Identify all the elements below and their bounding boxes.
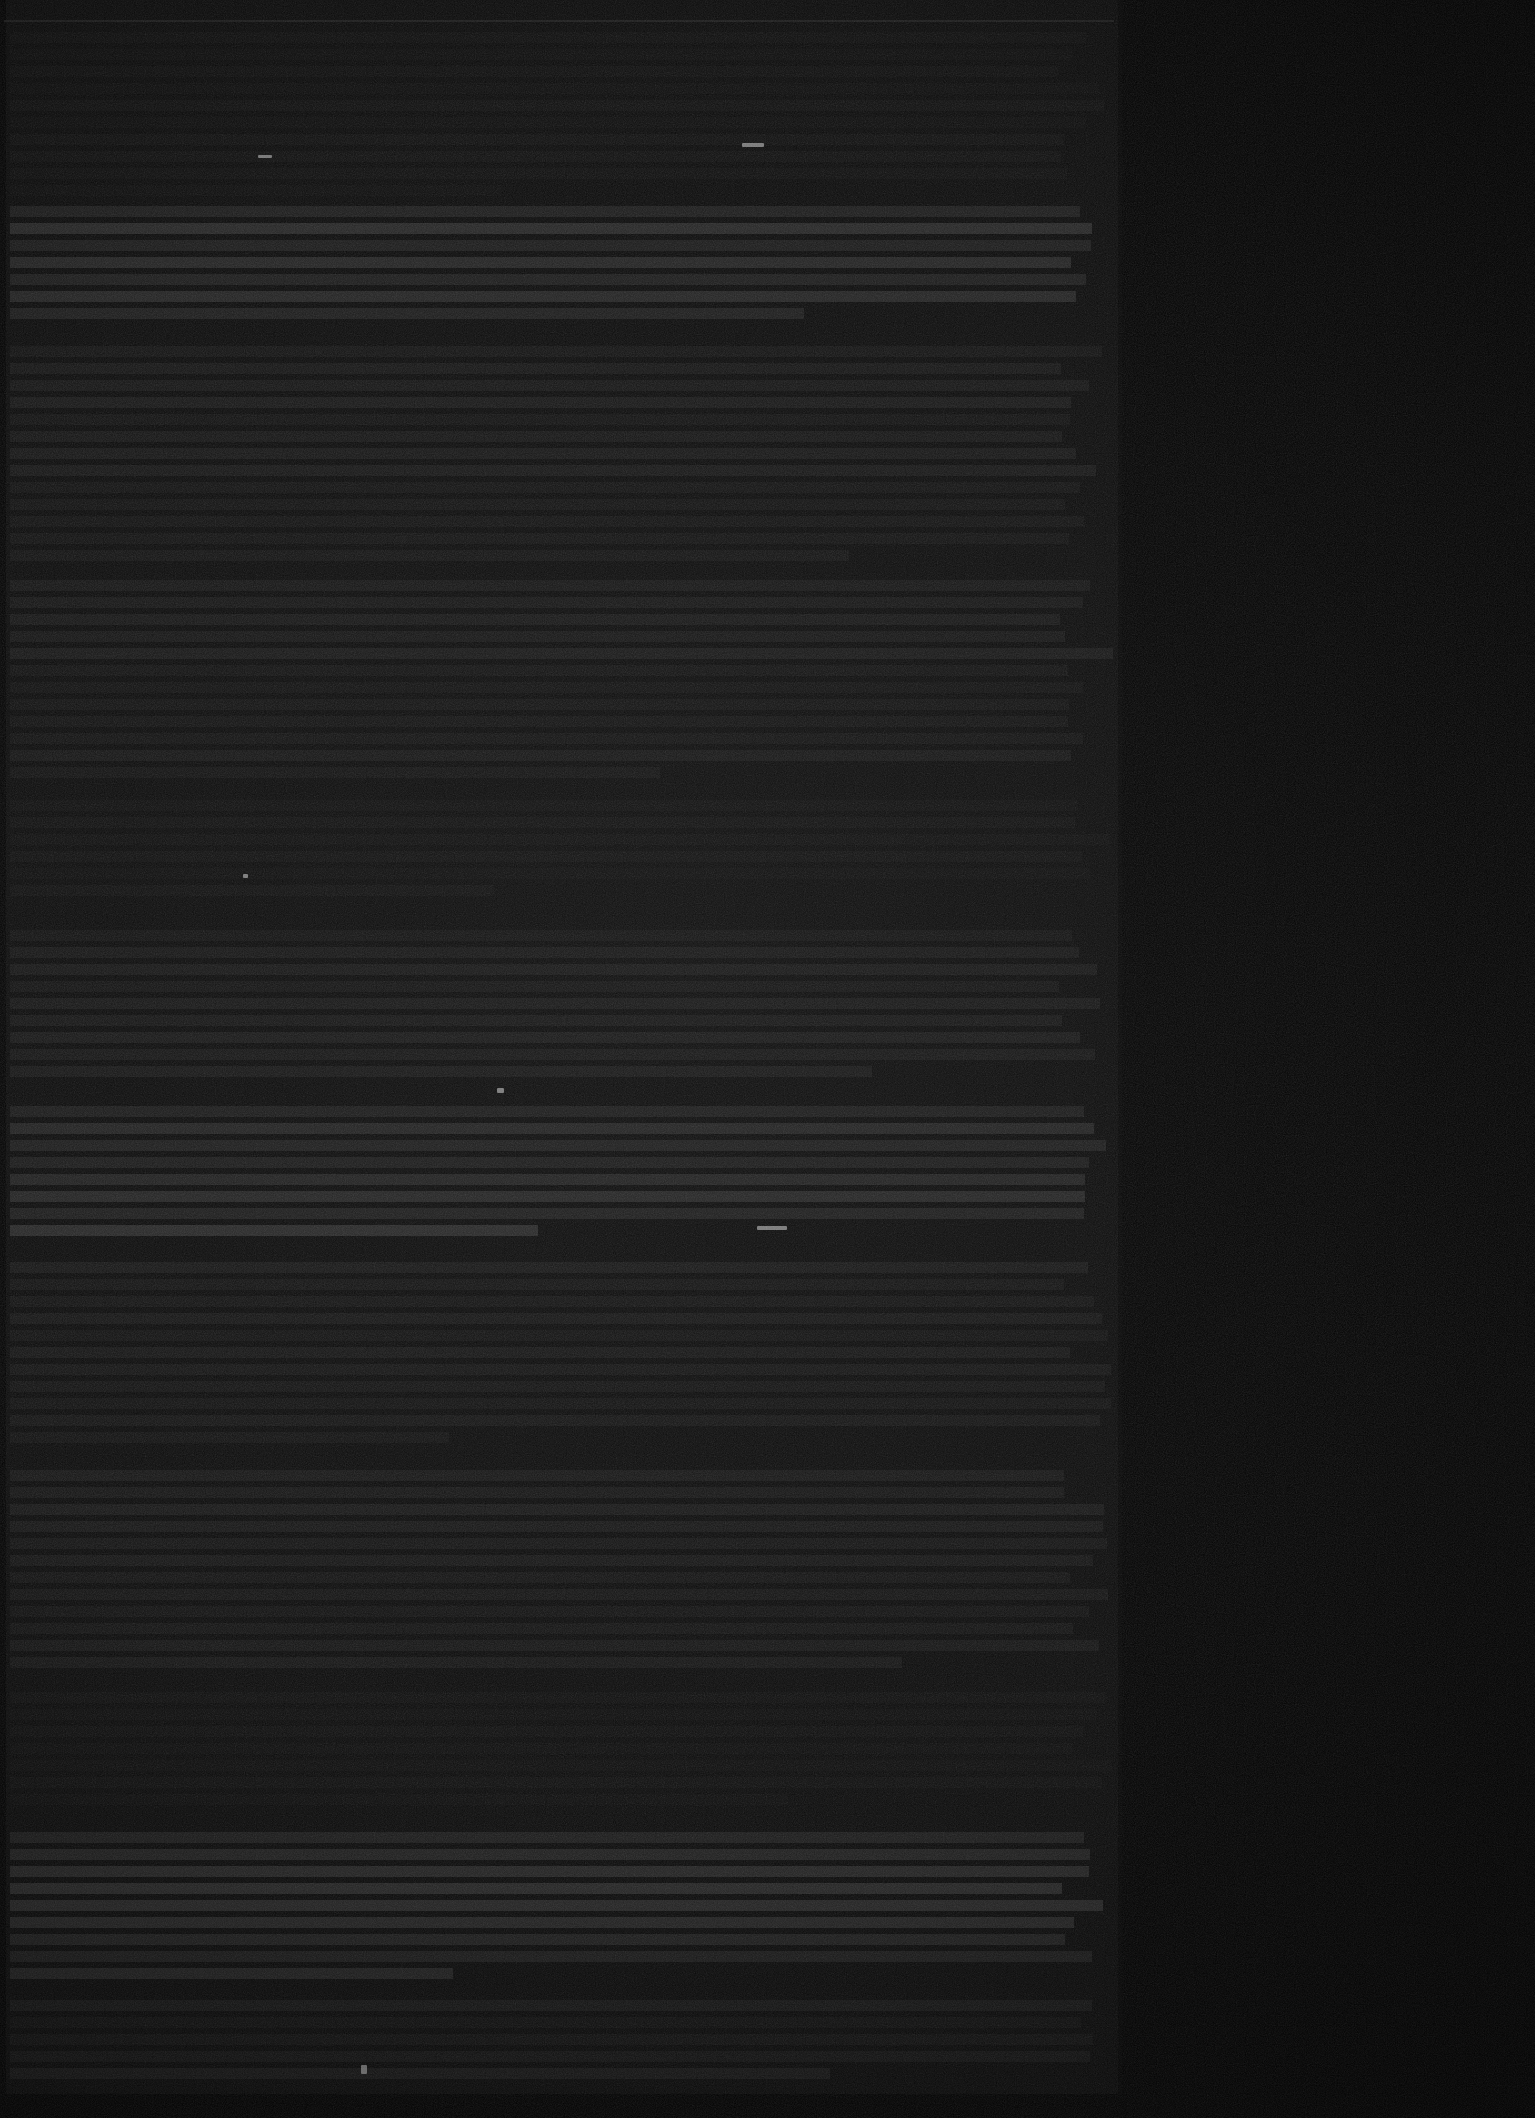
text-line [10,1866,1089,1877]
text-line [10,1066,872,1077]
text-line [10,1900,1103,1911]
text-line [10,648,1113,659]
scanner-speck [497,1088,504,1093]
text-line [10,1208,1084,1219]
text-line [10,1313,1102,1324]
text-line [10,1123,1094,1134]
text-line [10,448,1076,459]
text-line [10,1760,1112,1771]
text-line [10,2034,1093,2045]
text-line [10,117,1086,128]
page-left-border [0,0,6,2106]
text-line [10,1777,1102,1788]
text-line [10,1049,1095,1060]
text-line [10,1849,1090,1860]
text-line [10,308,804,319]
text-line [10,1015,1062,1026]
text-line [10,66,1059,77]
text-line [10,1657,902,1668]
header-rule [4,20,1114,22]
scanner-speck [757,1226,787,1230]
text-line [10,1794,788,1805]
text-line [10,868,1090,879]
text-line [10,1934,1065,1945]
text-line [10,614,1060,625]
text-line [10,1743,1072,1754]
text-line [10,1415,1100,1426]
paragraph-block [10,930,1114,1083]
text-line [10,257,1071,268]
text-line [10,1504,1104,1515]
text-line [10,1521,1103,1532]
text-line [10,580,1090,591]
text-line [10,499,1065,510]
text-line [10,100,1104,111]
text-line [10,1832,1084,1843]
text-line [10,682,1083,693]
paragraph-block [10,1692,1114,1811]
text-line [10,431,1062,442]
text-line [10,817,1075,828]
paragraph-block [10,580,1114,784]
scanner-speck [742,143,764,147]
text-line [10,1225,538,1236]
text-line [10,1692,1105,1703]
text-line [10,1106,1084,1117]
text-line [10,380,1089,391]
text-line [10,185,501,196]
page-bottom-border [0,2094,1122,2106]
text-line [10,1330,1108,1341]
paragraph-block [10,1470,1114,1674]
text-line [10,631,1065,642]
scanned-page [0,0,1122,2106]
text-line [10,1140,1106,1151]
text-line [10,533,1069,544]
text-line [10,168,1067,179]
text-line [10,1951,1092,1962]
text-line [10,851,1082,862]
text-line [10,49,1072,60]
text-line [10,223,1092,234]
text-line [10,998,1100,1009]
text-line [10,597,1083,608]
text-line [10,1157,1089,1168]
text-line [10,1709,1097,1720]
text-line [10,1364,1111,1375]
paragraph-block [10,32,1114,202]
text-line [10,240,1091,251]
text-line [10,291,1076,302]
text-line [10,32,1086,43]
text-line [10,2000,1092,2011]
scanner-speck [258,155,272,158]
text-line [10,750,1071,761]
text-line [10,1538,1107,1549]
text-line [10,83,1099,94]
text-line [10,1726,1083,1737]
text-line [10,346,1102,357]
paragraph-block [10,800,1114,902]
text-line [10,1191,1085,1202]
text-line [10,1623,1073,1634]
text-line [10,1883,1062,1894]
text-line [10,1381,1105,1392]
text-line [10,482,1080,493]
text-line [10,767,660,778]
text-line [10,274,1086,285]
paragraph-block [10,1262,1114,1449]
text-line [10,1589,1108,1600]
text-line [10,1572,1070,1583]
text-line [10,1347,1070,1358]
text-line [10,134,1064,145]
paragraph-block [10,206,1114,325]
text-line [10,1296,1094,1307]
text-line [10,964,1097,975]
text-line [10,1432,449,1443]
scanner-speck [361,2065,367,2074]
scanner-speck [243,874,248,878]
text-line [10,1262,1088,1273]
text-line [10,550,849,561]
text-line [10,1279,1064,1290]
text-line [10,1606,1089,1617]
paragraph-block [10,2000,1114,2085]
text-line [10,414,1070,425]
